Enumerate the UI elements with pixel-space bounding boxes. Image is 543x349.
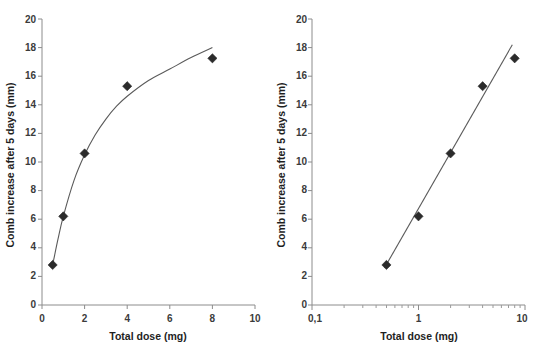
y-tick-label: 14 — [25, 99, 37, 110]
data-point — [123, 82, 132, 91]
y-tick-marks — [38, 19, 42, 305]
x-tick-label: 10 — [249, 313, 261, 324]
data-point — [208, 54, 217, 63]
data-point — [510, 54, 519, 63]
chart-panel-log: Comb increase after 5 days (mm) 20 18 16… — [271, 0, 542, 349]
log-chart-svg: Comb increase after 5 days (mm) 20 18 16… — [271, 0, 543, 349]
x-tick-marks — [42, 305, 255, 309]
x-axis-title: Total dose (mg) — [380, 330, 457, 342]
data-point — [48, 260, 57, 269]
x-tick-label: 8 — [210, 313, 216, 324]
y-tick-label: 10 — [296, 156, 308, 167]
x-tick-label: 0,1 — [308, 313, 322, 324]
x-tick-label: 1 — [416, 313, 422, 324]
y-tick-label: 4 — [30, 241, 36, 252]
data-point — [59, 212, 68, 221]
data-point — [382, 260, 391, 269]
y-tick-label: 20 — [25, 14, 37, 25]
data-point — [446, 149, 455, 158]
data-point — [478, 82, 487, 91]
y-tick-label: 4 — [301, 241, 307, 252]
x-axis-title: Total dose (mg) — [109, 330, 186, 342]
x-tick-label: 6 — [167, 313, 173, 324]
x-tick-label: 2 — [82, 313, 88, 324]
y-tick-label: 6 — [301, 213, 307, 224]
y-tick-label: 12 — [25, 127, 37, 138]
y-tick-label: 2 — [30, 270, 36, 281]
y-tick-label: 0 — [301, 299, 307, 310]
y-axis-title: Comb increase after 5 days (mm) — [4, 82, 16, 247]
y-tick-label: 18 — [25, 42, 37, 53]
linear-chart-svg: Comb increase after 5 days (mm) 20 18 16… — [0, 0, 271, 349]
data-markers — [48, 54, 217, 270]
y-tick-label: 14 — [296, 99, 308, 110]
y-tick-label: 8 — [30, 184, 36, 195]
x-tick-label: 4 — [124, 313, 130, 324]
x-tick-label: 0 — [39, 313, 45, 324]
fitted-curve — [53, 48, 213, 265]
figure-container: Comb increase after 5 days (mm) 20 18 16… — [0, 0, 543, 349]
y-tick-label: 12 — [296, 127, 308, 138]
y-tick-marks — [308, 19, 312, 305]
data-point — [80, 149, 89, 158]
chart-panel-linear: Comb increase after 5 days (mm) 20 18 16… — [0, 0, 271, 349]
y-tick-label: 10 — [25, 156, 37, 167]
y-tick-label: 2 — [301, 270, 307, 281]
y-tick-label: 16 — [25, 70, 37, 81]
y-tick-label: 20 — [296, 14, 308, 25]
y-tick-label: 0 — [30, 299, 36, 310]
y-axis-title: Comb increase after 5 days (mm) — [275, 82, 287, 247]
x-tick-marks-log — [312, 305, 525, 310]
y-tick-label: 6 — [30, 213, 36, 224]
x-tick-label: 10 — [516, 313, 528, 324]
y-tick-label: 16 — [296, 70, 308, 81]
y-tick-label: 8 — [301, 184, 307, 195]
y-tick-label: 18 — [296, 42, 308, 53]
